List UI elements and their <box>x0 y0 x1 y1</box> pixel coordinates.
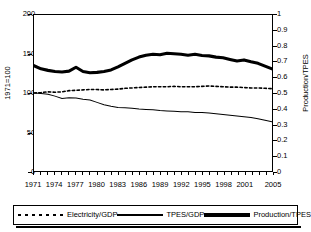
chart-legend: Electricity/GDP TPES/GDP Production/TPES <box>13 205 298 225</box>
y-axis-left-title: 1971=100 <box>4 48 12 118</box>
x-axis-tick-mark <box>125 172 126 175</box>
y-axis-left-tick-mark <box>28 133 32 134</box>
legend-label-tpes-gdp: TPES/GDP <box>166 211 204 219</box>
y-axis-right-tick-label: 0.4 <box>277 105 297 113</box>
legend-item-electricity-gdp: Electricity/GDP <box>18 211 117 219</box>
y-axis-left-tick-mark <box>28 172 32 173</box>
y-axis-right-tick-mark <box>273 93 277 94</box>
x-axis-tick-mark <box>181 172 182 175</box>
x-axis-tick-mark <box>167 172 168 175</box>
x-axis-tick-mark <box>111 172 112 175</box>
x-axis-tick-mark <box>68 172 69 175</box>
y-axis-right-tick-label: 0.9 <box>277 26 297 34</box>
y-axis-right-tick-label: 0.1 <box>277 152 297 160</box>
y-axis-right-tick-label: 0.2 <box>277 136 297 144</box>
x-axis-tick-mark <box>252 172 253 175</box>
chart-figure: 1971=100 Production/TPES 05010015020000.… <box>0 0 311 232</box>
x-axis-tick-mark <box>245 172 246 175</box>
x-axis-tick-mark <box>89 172 90 175</box>
y-axis-right-tick-mark <box>273 30 277 31</box>
series-canvas <box>34 15 272 171</box>
y-axis-right-tick-label: 0.7 <box>277 57 297 65</box>
plot-area <box>33 14 273 172</box>
x-axis-tick-mark <box>40 172 41 175</box>
y-axis-right-tick-label: 0.3 <box>277 121 297 129</box>
legend-label-electricity-gdp: Electricity/GDP <box>67 211 117 219</box>
y-axis-right-tick-mark <box>273 140 277 141</box>
x-axis-tick-mark <box>266 172 267 175</box>
x-axis-tick-mark <box>195 172 196 175</box>
y-axis-left-tick-mark <box>28 54 32 55</box>
x-axis-tick-mark <box>132 172 133 175</box>
y-axis-right-tick-mark <box>273 14 277 15</box>
y-axis-right-tick-mark <box>273 77 277 78</box>
x-axis-tick-mark <box>188 172 189 175</box>
series-line-tpes-gdp <box>34 93 272 122</box>
legend-label-production-tpes: Production/TPES <box>253 211 311 219</box>
x-axis-tick-mark <box>104 172 105 175</box>
y-axis-right-tick-label: 0 <box>277 168 297 176</box>
x-axis-tick-mark <box>33 172 34 175</box>
y-axis-right-tick-mark <box>273 109 277 110</box>
x-axis-tick-mark <box>146 172 147 175</box>
y-axis-left-tick-mark <box>28 14 32 15</box>
x-axis-tick-mark <box>61 172 62 175</box>
legend-item-production-tpes: Production/TPES <box>204 211 311 219</box>
x-axis-tick-mark <box>118 172 119 175</box>
x-axis-tick-mark <box>224 172 225 175</box>
legend-swatch-dotted-icon <box>18 214 64 216</box>
y-axis-right-tick-label: 1 <box>277 10 297 18</box>
x-axis-tick-mark <box>273 172 274 175</box>
x-axis-tick-mark <box>160 172 161 175</box>
y-axis-left-tick-mark <box>28 93 32 94</box>
x-axis-tick-mark <box>139 172 140 175</box>
legend-swatch-thick-line-icon <box>204 213 250 216</box>
x-axis-tick-label: 2005 <box>258 181 288 189</box>
x-axis-tick-mark <box>209 172 210 175</box>
x-axis-tick-mark <box>54 172 55 175</box>
y-axis-right-tick-mark <box>273 61 277 62</box>
x-axis-tick-mark <box>97 172 98 175</box>
x-axis-tick-mark <box>238 172 239 175</box>
x-axis-tick-mark <box>82 172 83 175</box>
y-axis-right-tick-label: 0.6 <box>277 73 297 81</box>
x-axis-tick-mark <box>202 172 203 175</box>
x-axis-tick-mark <box>174 172 175 175</box>
y-axis-right-tick-mark <box>273 46 277 47</box>
x-axis-tick-mark <box>75 172 76 175</box>
legend-item-tpes-gdp: TPES/GDP <box>117 211 204 219</box>
y-axis-right-tick-mark <box>273 156 277 157</box>
x-axis-tick-mark <box>231 172 232 175</box>
y-axis-right-title: Production/TPES <box>302 33 310 133</box>
x-axis-tick-mark <box>259 172 260 175</box>
x-axis-tick-mark <box>153 172 154 175</box>
x-axis-tick-label: 2001 <box>230 181 260 189</box>
y-axis-right-tick-label: 0.8 <box>277 42 297 50</box>
series-line-production-tpes <box>34 53 272 73</box>
series-line-electricity-gdp <box>34 86 272 93</box>
x-axis-tick-mark <box>217 172 218 175</box>
legend-swatch-thin-line-icon <box>117 214 163 215</box>
y-axis-right-tick-mark <box>273 125 277 126</box>
x-axis-tick-mark <box>47 172 48 175</box>
y-axis-right-tick-label: 0.5 <box>277 89 297 97</box>
